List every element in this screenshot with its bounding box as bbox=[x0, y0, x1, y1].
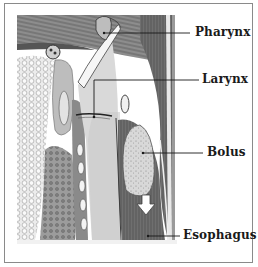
hyoid-bone bbox=[46, 45, 60, 59]
label-esophagus: Esophagus bbox=[183, 228, 257, 242]
illustration-base bbox=[17, 240, 177, 244]
palate-muscle bbox=[17, 15, 150, 60]
throat-illustration bbox=[0, 0, 258, 267]
label-larynx: Larynx bbox=[202, 72, 248, 86]
label-bolus: Bolus bbox=[207, 145, 246, 159]
arytenoid-cartilage bbox=[121, 95, 129, 113]
label-pharynx: Pharynx bbox=[195, 25, 250, 39]
bolus-mass bbox=[123, 125, 154, 196]
